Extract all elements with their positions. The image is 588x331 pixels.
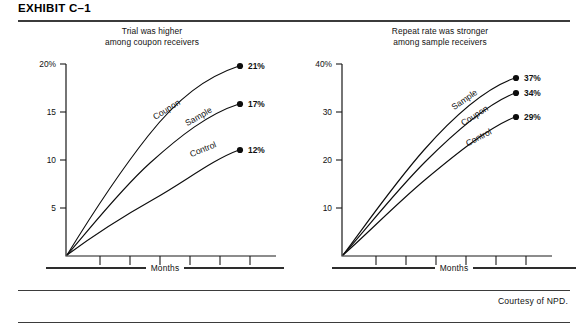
footer-divider-bottom <box>18 322 570 323</box>
curve-label-coupon-trial: Coupon <box>151 97 182 122</box>
months-rule-right-repeat <box>473 267 576 269</box>
chart-panel-repeat: Repeat rate was stronger among sample re… <box>296 24 584 282</box>
endpoint-label-coupon-repeat: 34% <box>524 88 541 98</box>
endpoint-label-coupon-trial: 21% <box>248 61 265 71</box>
page-title: EXHIBIT C–1 <box>18 2 91 14</box>
y-axis-ticks-trial <box>60 64 66 208</box>
curve-label-control-repeat: Control <box>464 126 493 148</box>
y-tick-label-0: 40% <box>315 59 332 69</box>
endpoint-label-control-repeat: 29% <box>524 112 541 122</box>
plot-area-trial: 20% 15 10 5 21% Coupon <box>8 24 296 282</box>
endpoint-label-control-trial: 12% <box>248 145 265 155</box>
endpoint-label-sample-repeat: 37% <box>524 73 541 83</box>
chart-panel-trial: Trial was higher among coupon receivers … <box>8 24 296 282</box>
header-divider <box>18 20 570 22</box>
curve-control-trial <box>67 150 239 255</box>
y-axis-ticks-repeat <box>336 64 342 208</box>
endpoint-dot-coupon-trial <box>237 63 243 69</box>
axis-lines-trial <box>66 64 276 256</box>
y-tick-label-1: 30 <box>323 107 333 117</box>
y-tick-label-3: 5 <box>51 203 56 213</box>
months-rule-left-repeat <box>332 267 435 269</box>
x-axis-label-trial: Months <box>151 263 180 273</box>
endpoint-dot-coupon-repeat <box>513 90 519 96</box>
y-tick-label-0: 20% <box>39 59 56 69</box>
endpoint-label-sample-trial: 17% <box>248 99 265 109</box>
endpoint-dot-sample-repeat <box>513 75 519 81</box>
curve-sample-repeat <box>343 78 515 255</box>
curve-control-repeat <box>343 117 515 255</box>
plot-area-repeat: 40% 30 20 10 37% Sample <box>296 24 584 282</box>
y-tick-label-2: 20 <box>323 155 333 165</box>
endpoint-dot-control-repeat <box>513 114 519 120</box>
endpoint-dot-sample-trial <box>237 101 243 107</box>
curve-label-control-trial: Control <box>188 139 218 159</box>
courtesy-credit: Courtesy of NPD. <box>498 296 568 306</box>
curve-sample-trial <box>67 104 239 255</box>
y-tick-label-3: 10 <box>323 203 333 213</box>
x-axis-label-bar-trial: Months <box>46 262 284 274</box>
y-tick-label-1: 15 <box>47 107 57 117</box>
x-axis-label-repeat: Months <box>440 263 469 273</box>
curve-label-sample-repeat: Sample <box>449 87 479 112</box>
exhibit-page: EXHIBIT C–1 Trial was higher among coupo… <box>0 0 588 331</box>
months-rule-right-trial <box>184 267 284 269</box>
footer-divider-top <box>18 290 570 291</box>
y-tick-label-2: 10 <box>47 155 57 165</box>
x-axis-label-bar-repeat: Months <box>332 262 576 274</box>
months-rule-left-trial <box>46 267 146 269</box>
endpoint-dot-control-trial <box>237 147 243 153</box>
curve-label-coupon-repeat: Coupon <box>459 103 490 128</box>
